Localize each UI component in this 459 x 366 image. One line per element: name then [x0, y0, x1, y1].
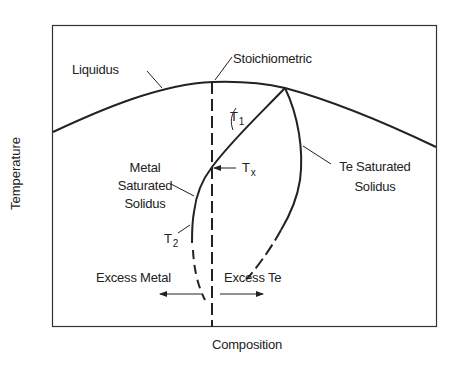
y-axis-label: Temperature — [8, 137, 23, 210]
tx-text: T — [242, 160, 250, 175]
t2-text: T — [164, 231, 172, 246]
liquidus-label: Liquidus — [72, 63, 119, 76]
liquidus-curve — [53, 82, 436, 147]
t1-subscript: 1 — [239, 116, 244, 127]
tx-label: Tx — [242, 161, 256, 174]
te-saturated-solidus-upper — [281, 88, 301, 230]
x-axis-label: Composition — [212, 338, 282, 351]
metal-saturated-solidus-label: Metal Saturated Solidus — [100, 159, 190, 213]
excess-te-label: Excess Te — [224, 271, 281, 284]
metal-saturated-solidus-dashed — [193, 250, 205, 300]
metal-solidus-line1: Metal — [100, 159, 190, 177]
metal-solidus-line3: Solidus — [100, 195, 190, 213]
metal-solidus-line2: Saturated — [100, 177, 190, 195]
excess-metal-label: Excess Metal — [96, 271, 171, 284]
te-saturated-solidus-label: Te Saturated Solidus — [325, 157, 425, 197]
stoichiometric-label: Stoichiometric — [233, 52, 312, 65]
te-solidus-line1: Te Saturated — [325, 157, 425, 177]
te-solidus-line2: Solidus — [325, 177, 425, 197]
t2-leader — [178, 225, 190, 233]
t1-label: T1 — [230, 110, 244, 123]
t1-text: T — [230, 109, 238, 124]
liquidus-leader — [147, 71, 162, 88]
tx-subscript: x — [251, 167, 256, 178]
stoichiometric-leader — [215, 57, 232, 80]
t2-label: T2 — [164, 232, 178, 245]
t2-subscript: 2 — [173, 238, 178, 249]
